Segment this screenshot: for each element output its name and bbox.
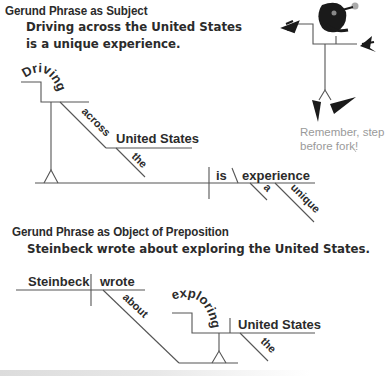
- preposition-word: across: [80, 105, 114, 139]
- modifier-unique-word: unique: [289, 181, 323, 215]
- stick-figure-mascot-icon: [283, 3, 376, 153]
- diagram-subject: Driving across United States the is expe…: [19, 60, 322, 222]
- verb-word: is: [216, 168, 227, 183]
- object-word: United States: [116, 131, 199, 146]
- diagram-canvas: Driving across United States the is expe…: [0, 0, 388, 376]
- fork-line: [44, 170, 58, 183]
- complement-word: experience: [242, 168, 310, 183]
- fork-line-2: [212, 351, 226, 363]
- diagram-object-of-preposition: Steinbeck wrote about exploring United S…: [16, 274, 321, 363]
- object-modifier-word: the: [130, 150, 150, 170]
- preposition-word-2: about: [121, 291, 151, 320]
- bottom-divider: [0, 370, 388, 376]
- subject-word: Steinbeck: [28, 274, 90, 289]
- object-modifier-word-2: the: [259, 335, 279, 355]
- gerund-word-2: exploring: [170, 285, 224, 329]
- object-word-2: United States: [238, 317, 321, 332]
- gerund-word: Driving: [19, 60, 69, 93]
- complement-divider: [232, 168, 238, 183]
- verb-word-2: wrote: [99, 274, 135, 289]
